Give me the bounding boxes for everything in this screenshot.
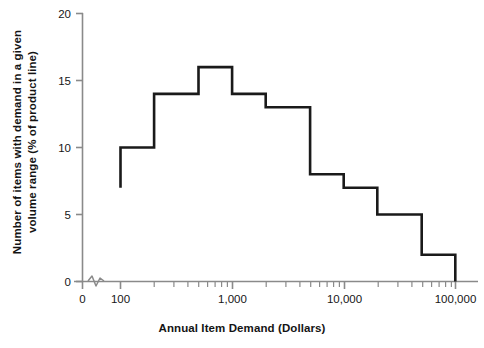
y-axis-title-line1: Number of items with demand in a given	[11, 30, 23, 254]
y-tick-label: 5	[65, 209, 71, 221]
y-tick-label: 15	[58, 75, 71, 87]
y-tick-labels: 20 15 10 5 0	[58, 8, 71, 288]
x-tick-labels: 0 100 1,000 10,000 100,000	[79, 293, 476, 305]
y-tick-label: 20	[58, 8, 71, 20]
x-tick-label: 100	[111, 293, 130, 305]
y-tick-label: 0	[65, 276, 71, 288]
y-axis-title: Number of items with demand in a given v…	[10, 22, 40, 262]
x-tick-label: 100,000	[435, 293, 477, 305]
x-tick-label: 1,000	[218, 293, 247, 305]
y-tick-label: 10	[58, 142, 71, 154]
chart-plot-area: 20 15 10 5 0	[0, 0, 484, 348]
x-axis-title: Annual Item Demand (Dollars)	[0, 322, 484, 334]
x-tick-label: 0	[79, 293, 85, 305]
step-histogram-line	[121, 67, 456, 281]
y-axis-title-line2: volume range (% of product line)	[26, 51, 38, 233]
x-tick-label: 10,000	[327, 293, 362, 305]
y-axis-title-container: Number of items with demand in a given v…	[2, 0, 48, 290]
chart-figure: 20 15 10 5 0	[0, 0, 484, 348]
